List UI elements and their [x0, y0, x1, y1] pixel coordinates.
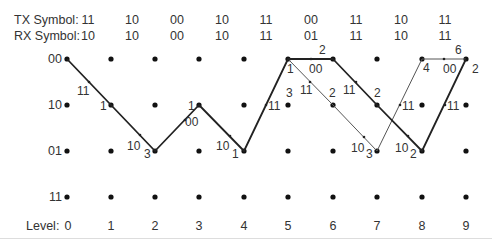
level-tick: 8	[419, 219, 426, 233]
path-metric: 2	[329, 87, 336, 100]
level-tick: 3	[196, 219, 203, 233]
edge-arrow-ticks	[88, 58, 447, 139]
path-metric: 4	[423, 62, 430, 75]
path-metric: 3	[144, 148, 151, 161]
trellis-nodes	[64, 56, 468, 199]
path-metric: 6	[455, 44, 462, 57]
edge-label: 11	[402, 100, 414, 113]
level-tick: 5	[285, 219, 292, 233]
path-metric: 2	[319, 44, 326, 57]
level-tick: 0	[65, 219, 72, 233]
path-metric: 2	[472, 63, 479, 76]
level-tick: 6	[330, 219, 337, 233]
edge-label: 11	[447, 100, 459, 113]
bottom-divider	[0, 238, 492, 239]
edge-label: 11	[343, 84, 355, 97]
level-tick: 2	[152, 219, 159, 233]
edge-label: 10	[216, 140, 229, 153]
path-metric: 1	[100, 100, 107, 113]
edge-label: 00	[309, 63, 322, 76]
path-metric: 1	[287, 63, 294, 76]
edge-label: 11	[300, 84, 312, 97]
edge-label: 11	[268, 100, 280, 113]
edge-label: 10	[395, 142, 408, 155]
level-tick: 4	[241, 219, 248, 233]
edge-label: 11	[77, 85, 89, 98]
trellis-diagram	[0, 0, 492, 241]
level-tick: 9	[463, 219, 470, 233]
path-metric: 2	[410, 148, 417, 161]
level-tick: 1	[108, 219, 115, 233]
path-metric: 2	[374, 87, 381, 100]
path-metric: 1	[232, 148, 239, 161]
level-axis-label: Level:	[26, 219, 59, 233]
edge-label: 00	[443, 63, 456, 76]
path-metric: 3	[286, 87, 293, 100]
edge-label: 00	[185, 116, 198, 129]
level-tick: 7	[374, 219, 381, 233]
path-metric: 3	[366, 148, 373, 161]
edge-label: 10	[127, 140, 140, 153]
edge-label: 10	[351, 142, 364, 155]
path-metric: 1	[188, 100, 195, 113]
